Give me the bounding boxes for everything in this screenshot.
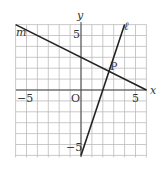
y-axis-label: y xyxy=(76,9,84,22)
line-l-label: ℓ xyxy=(124,20,129,33)
point-p-label: P xyxy=(110,60,118,73)
y-pos-tick-label: 5 xyxy=(73,28,80,41)
x-axis-label: x xyxy=(150,84,157,97)
y-neg-tick-label: −5 xyxy=(66,141,82,154)
line-m-label: m xyxy=(16,26,26,39)
x-pos-tick-label: 5 xyxy=(132,92,139,105)
x-neg-tick-label: −5 xyxy=(17,92,33,105)
coordinate-plane: x y O −5 5 5 −5 m ℓ P xyxy=(0,0,165,172)
origin-label: O xyxy=(71,92,80,105)
